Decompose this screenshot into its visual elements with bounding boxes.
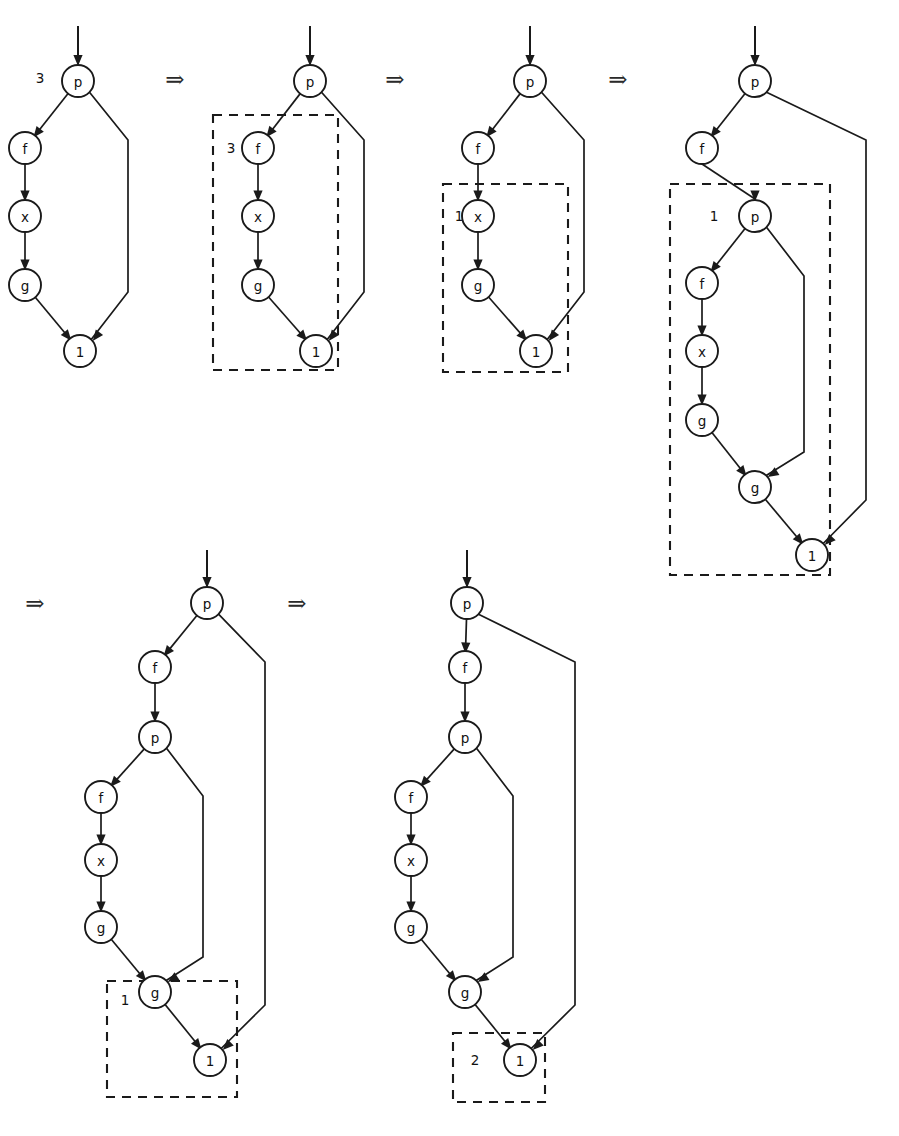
node-g2-x[interactable]: x xyxy=(242,200,274,232)
node-g3-p[interactable]: p xyxy=(514,65,546,97)
node-g6-x[interactable]: x xyxy=(395,844,427,876)
edge-g1-f-to-g1-x xyxy=(20,164,29,202)
reduction-step-arrow-3: ⇒ xyxy=(608,66,627,92)
edge-g5-f1-to-g5-p2 xyxy=(150,683,159,723)
graph-5: 1pfpfxgg1 xyxy=(85,550,265,1097)
node-label: p xyxy=(751,209,760,225)
edge-g5-g2-to-g5-1 xyxy=(165,1004,201,1049)
node-label: p xyxy=(203,596,212,612)
edge-g5-g1-to-g5-g2 xyxy=(111,939,146,981)
node-g1-f[interactable]: f xyxy=(9,132,41,164)
node-g6-g2[interactable]: g xyxy=(449,976,481,1008)
node-g6-1[interactable]: 1 xyxy=(504,1044,536,1076)
node-g4-x[interactable]: x xyxy=(686,335,718,367)
graph-rewriting-diagram: pfxg133pfxg11pfxg11pfpfxgg11pfpfxgg12pfp… xyxy=(0,0,899,1136)
node-g6-f1[interactable]: f xyxy=(449,651,481,683)
node-g4-p2[interactable]: p xyxy=(739,200,771,232)
edge-g1-p-to-g1-1 xyxy=(90,92,128,341)
node-label: g xyxy=(407,920,416,936)
node-g1-1[interactable]: 1 xyxy=(64,335,96,367)
edge-g3-f-to-g3-x xyxy=(473,164,482,202)
reduction-step-arrow-5: ⇒ xyxy=(287,590,306,616)
node-g4-f2[interactable]: f xyxy=(686,267,718,299)
node-g6-f2[interactable]: f xyxy=(395,781,427,813)
node-g6-g1[interactable]: g xyxy=(395,911,427,943)
node-g4-g2[interactable]: g xyxy=(739,471,771,503)
node-g4-f1[interactable]: f xyxy=(686,132,718,164)
node-g5-f2[interactable]: f xyxy=(85,781,117,813)
node-g2-f[interactable]: f xyxy=(242,132,274,164)
node-label: g xyxy=(21,278,30,294)
node-g6-p1[interactable]: p xyxy=(451,587,483,619)
edge-g1-x-to-g1-g xyxy=(20,232,29,271)
node-label: 1 xyxy=(76,344,85,360)
edge-g4-g1-to-g4-g2 xyxy=(712,433,747,477)
node-label: p xyxy=(74,74,83,90)
graph-2-redex[interactable]: 3 xyxy=(213,115,338,370)
node-label: g xyxy=(254,278,263,294)
node-g3-1[interactable]: 1 xyxy=(520,335,552,367)
node-label: x xyxy=(407,853,415,869)
node-label: p xyxy=(151,730,160,746)
entry-arrow-graph-6 xyxy=(462,550,471,588)
edge-g5-f2-to-g5-x xyxy=(96,813,105,846)
edge-g2-p-to-g2-1 xyxy=(322,92,364,341)
node-g2-p[interactable]: p xyxy=(294,65,326,97)
node-g5-1[interactable]: 1 xyxy=(194,1044,226,1076)
edge-g2-x-to-g2-g xyxy=(253,232,262,271)
node-g5-p2[interactable]: p xyxy=(139,721,171,753)
entry-arrow-graph-1 xyxy=(73,26,82,66)
node-label: 1 xyxy=(312,344,321,360)
redex-box-label: 1 xyxy=(121,992,130,1008)
node-label: g xyxy=(698,413,707,429)
node-g3-x[interactable]: x xyxy=(462,200,494,232)
node-g6-p2[interactable]: p xyxy=(449,721,481,753)
edge-g4-f2-to-g4-x xyxy=(697,299,706,337)
redex-box[interactable] xyxy=(670,184,830,575)
node-label: p xyxy=(463,596,472,612)
node-g2-1[interactable]: 1 xyxy=(300,335,332,367)
edge-path xyxy=(476,748,513,980)
edge-path xyxy=(219,614,265,1048)
edge-g6-g1-to-g6-g2 xyxy=(421,939,456,981)
edge-g6-g2-to-g6-1 xyxy=(475,1004,511,1049)
node-g1-g[interactable]: g xyxy=(9,269,41,301)
node-g1-x[interactable]: x xyxy=(9,200,41,232)
node-label: g xyxy=(751,480,760,496)
node-g3-g[interactable]: g xyxy=(462,269,494,301)
node-label: g xyxy=(151,985,160,1001)
reduction-step-arrow-2: ⇒ xyxy=(385,66,404,92)
edge-path xyxy=(479,614,575,1048)
node-label: g xyxy=(97,920,106,936)
node-g4-1[interactable]: 1 xyxy=(796,539,828,571)
graph-4-redex[interactable]: 1 xyxy=(670,184,830,575)
edge-path xyxy=(766,227,804,475)
node-label: 1 xyxy=(808,548,817,564)
node-g5-x[interactable]: x xyxy=(85,844,117,876)
edge-g6-x-to-g6-g1 xyxy=(406,876,415,913)
edge-path xyxy=(322,92,364,339)
graph-5-redex[interactable]: 1 xyxy=(107,981,237,1097)
edge-arrowhead xyxy=(93,329,103,341)
node-g5-f1[interactable]: f xyxy=(139,651,171,683)
node-label: x xyxy=(97,853,105,869)
node-g5-g2[interactable]: g xyxy=(139,976,171,1008)
graph-2: 3pfxg1 xyxy=(213,26,364,370)
edge-g4-g2-to-g4-1 xyxy=(765,499,803,544)
edge-g1-p-to-g1-f xyxy=(33,94,68,138)
edge-g5-p1-to-g5-1 xyxy=(219,614,265,1050)
node-label: 1 xyxy=(532,344,541,360)
node-g5-g1[interactable]: g xyxy=(85,911,117,943)
node-g3-f[interactable]: f xyxy=(462,132,494,164)
node-g2-g[interactable]: g xyxy=(242,269,274,301)
edge-g1-g-to-g1-1 xyxy=(35,297,71,340)
edge-g6-p2-to-g6-f2 xyxy=(420,749,454,787)
node-label: x xyxy=(254,209,262,225)
node-g1-p[interactable]: p xyxy=(62,65,94,97)
node-g4-g1[interactable]: g xyxy=(686,404,718,436)
edge-arrowhead xyxy=(549,329,559,341)
node-g5-p1[interactable]: p xyxy=(191,587,223,619)
node-label: x xyxy=(698,344,706,360)
node-g4-p1[interactable]: p xyxy=(739,65,771,97)
node-label: p xyxy=(306,74,315,90)
